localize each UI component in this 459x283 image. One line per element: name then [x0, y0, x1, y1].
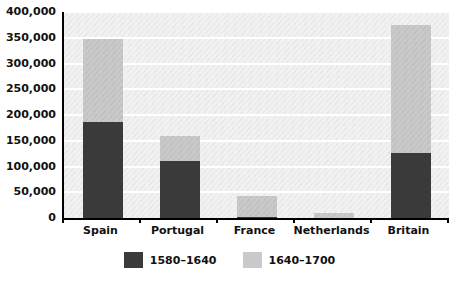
y-axis-tick-label: 250,000 — [0, 83, 56, 94]
x-axis-tick — [62, 218, 64, 223]
bar-segment[interactable] — [160, 136, 200, 162]
y-axis-tick-label: 400,000 — [0, 6, 56, 17]
y-axis-tick-label: 300,000 — [0, 58, 56, 69]
x-axis-tick-label: Britain — [388, 224, 430, 237]
x-axis-tick-label: Spain — [83, 224, 118, 237]
bar-segment[interactable] — [391, 153, 431, 218]
bar-segment[interactable] — [314, 213, 354, 218]
legend-swatch — [243, 252, 262, 268]
bar-segment[interactable] — [391, 25, 431, 153]
y-axis-tick-label: 100,000 — [0, 161, 56, 172]
x-axis-tick — [293, 218, 295, 223]
legend: 1580–16401640–1700 — [0, 252, 459, 268]
x-axis-tick — [139, 218, 141, 223]
legend-item[interactable]: 1640–1700 — [243, 252, 336, 268]
bar-group[interactable] — [160, 12, 200, 218]
bar-group[interactable] — [83, 12, 123, 218]
y-axis-tick-label: 0 — [0, 212, 56, 223]
legend-label: 1640–1700 — [269, 255, 336, 266]
x-axis-tick-label: Portugal — [151, 224, 204, 237]
bar-segment[interactable] — [237, 217, 277, 218]
plot-inner — [64, 12, 449, 218]
plot-area — [62, 12, 449, 220]
bar-segment[interactable] — [237, 196, 277, 217]
y-axis-tick-label: 200,000 — [0, 109, 56, 120]
bar-group[interactable] — [314, 12, 354, 218]
legend-item[interactable]: 1580–1640 — [124, 252, 217, 268]
bar-group[interactable] — [237, 12, 277, 218]
y-axis-tick-label: 50,000 — [0, 186, 56, 197]
x-axis-tick — [447, 218, 449, 223]
legend-swatch — [124, 252, 143, 268]
x-axis-tick-label: Netherlands — [293, 224, 369, 237]
y-axis-tick-label: 150,000 — [0, 135, 56, 146]
y-axis-tick-label: 350,000 — [0, 32, 56, 43]
x-axis-tick-label: France — [234, 224, 275, 237]
bar-segment[interactable] — [83, 39, 123, 121]
bar-group[interactable] — [391, 12, 431, 218]
x-axis-tick — [216, 218, 218, 223]
bar-segment[interactable] — [160, 161, 200, 218]
legend-label: 1580–1640 — [150, 255, 217, 266]
stacked-bar-chart: 400,000350,000300,000250,000200,000150,0… — [0, 0, 459, 283]
x-axis-tick — [370, 218, 372, 223]
bar-segment[interactable] — [83, 122, 123, 218]
